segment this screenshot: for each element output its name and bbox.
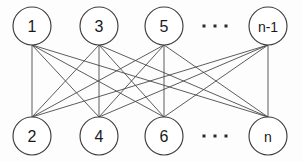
- node-label: 5: [160, 18, 169, 35]
- graph-node-4[interactable]: 4: [80, 117, 118, 155]
- node-label: 2: [28, 128, 37, 145]
- graph-node-n-1[interactable]: n-1: [249, 7, 287, 45]
- ellipsis-layer: [203, 25, 228, 138]
- graph-node-2[interactable]: 2: [13, 117, 51, 155]
- ellipsis-dot: [203, 25, 206, 28]
- bottom-ellipsis: [203, 135, 228, 138]
- node-label: 4: [95, 128, 104, 145]
- graph-node-6[interactable]: 6: [145, 117, 183, 155]
- ellipsis-dot: [203, 135, 206, 138]
- ellipsis-dot: [214, 135, 217, 138]
- bipartite-graph-diagram: 135n-1246n: [0, 0, 302, 162]
- node-label: n-1: [258, 19, 278, 35]
- ellipsis-dot: [214, 25, 217, 28]
- node-label: 1: [28, 18, 37, 35]
- ellipsis-dot: [225, 135, 228, 138]
- graph-node-n[interactable]: n: [249, 117, 287, 155]
- edge-layer: [32, 45, 268, 117]
- graph-node-1[interactable]: 1: [13, 7, 51, 45]
- ellipsis-dot: [225, 25, 228, 28]
- graph-node-3[interactable]: 3: [80, 7, 118, 45]
- node-label: n: [264, 129, 272, 145]
- graph-canvas: 135n-1246n: [0, 0, 302, 162]
- graph-node-5[interactable]: 5: [145, 7, 183, 45]
- top-ellipsis: [203, 25, 228, 28]
- node-label: 6: [160, 128, 169, 145]
- node-label: 3: [95, 18, 104, 35]
